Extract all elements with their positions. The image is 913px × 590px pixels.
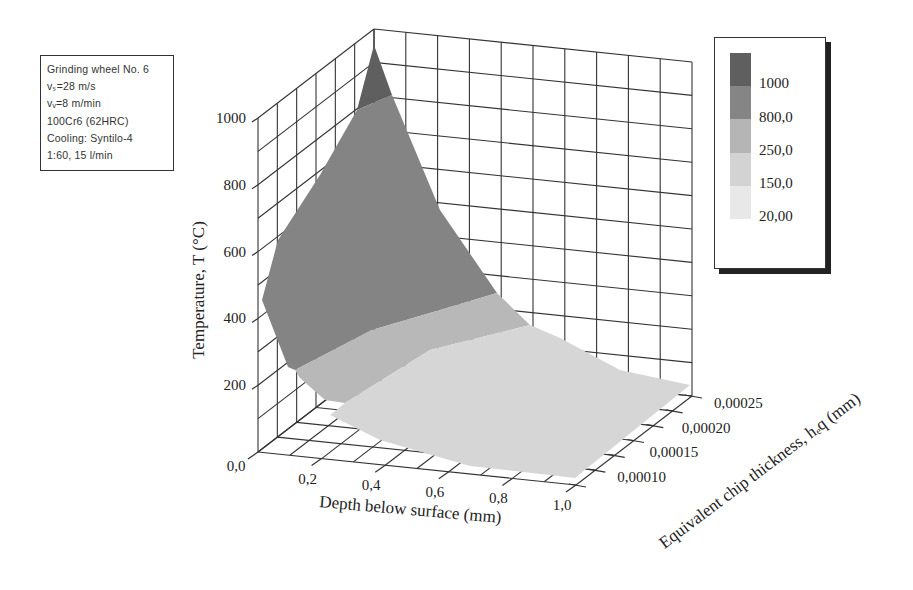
y-tick	[685, 395, 702, 398]
y-axis-title: Equivalent chip thickness, hₑq (mm)	[656, 389, 864, 553]
y-tick-label: 0,00020	[682, 420, 731, 436]
info-line: 1:60, 15 l/min	[47, 147, 173, 164]
z-tick	[252, 185, 258, 189]
x-tick	[566, 485, 576, 492]
legend-swatch	[730, 53, 751, 86]
z-axis-title: Temperature, T (°C)	[189, 221, 208, 359]
legend-swatch	[730, 119, 751, 152]
legend-label: 150,0	[759, 175, 793, 192]
z-tick	[252, 318, 258, 322]
legend-label: 800,0	[759, 109, 793, 126]
z-tick-label: 800	[224, 177, 247, 193]
z-tick	[252, 385, 258, 389]
x-tick	[312, 459, 322, 466]
z-tick-label: 600	[224, 244, 247, 260]
info-line: vₛ=28 m/s	[47, 78, 173, 95]
info-line: vᵥ=8 m/min	[47, 95, 173, 112]
x-tick-label: 1,0	[553, 497, 572, 513]
x-tick-label: 0,8	[489, 490, 508, 506]
x-tick	[375, 465, 385, 472]
legend-color-bar	[730, 53, 751, 219]
info-line: Cooling: Syntilo-4	[47, 130, 173, 147]
z-tick	[252, 118, 258, 122]
experiment-info-box: Grinding wheel No. 6 vₛ=28 m/s vᵥ=8 m/mi…	[40, 55, 174, 171]
x-tick	[439, 472, 449, 479]
y-tick-label: 0,00025	[714, 395, 763, 411]
x-tick-label: 0,0	[227, 458, 246, 474]
legend-label: 1000	[759, 75, 789, 92]
temperature-surface	[262, 45, 690, 478]
x-tick	[248, 452, 258, 459]
x-tick-label: 0,4	[362, 477, 381, 493]
legend-swatch	[730, 86, 751, 119]
x-tick-label: 0,6	[425, 484, 444, 500]
z-tick-label: 400	[224, 310, 247, 326]
legend-label: 250,0	[759, 142, 793, 159]
legend-swatch	[730, 153, 751, 186]
legend-label: 20,00	[759, 208, 793, 225]
info-line: 100Cr6 (62HRC)	[47, 113, 173, 130]
z-tick	[252, 252, 258, 256]
z-tick-label: 1000	[216, 110, 246, 126]
legend-swatch	[730, 186, 751, 219]
y-tick-label: 0,00015	[650, 444, 699, 460]
x-tick	[502, 478, 512, 485]
color-legend: 1000 800,0 250,0 150,0 20,00	[714, 37, 826, 269]
z-tick-label: 200	[224, 377, 247, 393]
info-line: Grinding wheel No. 6	[47, 61, 173, 78]
y-tick-label: 0,00010	[617, 469, 666, 485]
x-tick-label: 0,2	[298, 471, 317, 487]
x-axis-title: Depth below surface (mm)	[319, 492, 503, 527]
